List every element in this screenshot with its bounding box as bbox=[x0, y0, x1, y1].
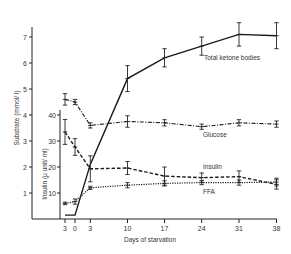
label-ffa: FFA bbox=[203, 188, 216, 195]
x-axis-label: Days of starvation bbox=[124, 236, 176, 244]
series-total-ketone-bodies bbox=[65, 23, 279, 215]
y-tick-label: 5 bbox=[23, 86, 27, 93]
x-axis: 3031017243138 bbox=[32, 219, 280, 232]
x-tick-label: 31 bbox=[235, 225, 243, 232]
y-tick-label: 7 bbox=[23, 34, 27, 41]
y-tick-label: 1 bbox=[23, 190, 27, 197]
x-tick-label: 3 bbox=[63, 225, 67, 232]
y-tick-label: 4 bbox=[23, 112, 27, 119]
x-tick-label: 10 bbox=[124, 225, 132, 232]
chart: 1234567 10203040 3031017243138 Substrate… bbox=[0, 0, 291, 254]
x-tick-label: 0 bbox=[73, 225, 77, 232]
label-ketone: Total ketone bodies bbox=[204, 54, 261, 61]
y-tick-label: 2 bbox=[23, 164, 27, 171]
y-axis-label: Substrate (mmol/ l) bbox=[13, 91, 21, 146]
main-y-axis: 1234567 bbox=[23, 27, 32, 219]
x-tick-label: 38 bbox=[273, 225, 281, 232]
insulin-tick-label: 30 bbox=[48, 138, 56, 145]
y-tick-label: 3 bbox=[23, 138, 27, 145]
x-tick-label: 3 bbox=[88, 225, 92, 232]
x-tick-label: 17 bbox=[161, 225, 169, 232]
y-tick-label: 6 bbox=[23, 60, 27, 67]
series-glucose bbox=[63, 94, 279, 130]
x-tick-label: 24 bbox=[198, 225, 206, 232]
insulin-y-axis: 10203040 bbox=[48, 110, 60, 219]
insulin-tick-label: 10 bbox=[48, 190, 56, 197]
insulin-tick-label: 40 bbox=[48, 112, 56, 119]
series-group bbox=[63, 23, 279, 215]
label-glucose: Glucose bbox=[203, 131, 227, 138]
chart-svg: 1234567 10203040 3031017243138 Substrate… bbox=[0, 0, 291, 254]
insulin-axis-label: Insulin (μ unit/ ml) bbox=[41, 148, 49, 199]
insulin-tick-label: 20 bbox=[48, 164, 56, 171]
series-ffa bbox=[63, 178, 279, 205]
label-insulin: Insulin bbox=[203, 163, 222, 170]
